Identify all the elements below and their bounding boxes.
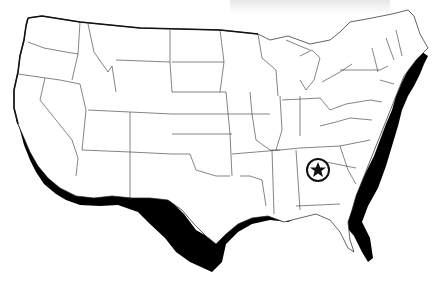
land xyxy=(14,10,428,252)
usa-map xyxy=(0,0,437,281)
star-in-circle-icon xyxy=(307,159,329,181)
